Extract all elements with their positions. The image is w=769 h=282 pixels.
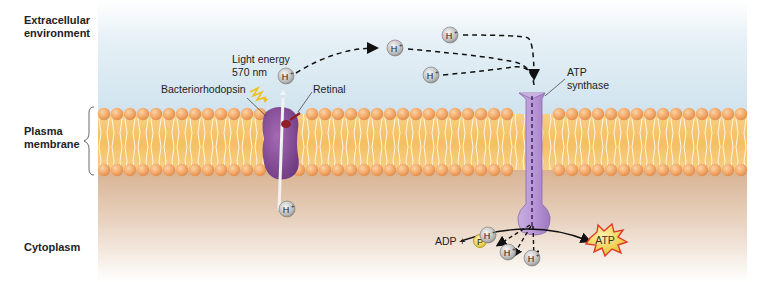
svg-text:+: +: [399, 42, 403, 48]
lipid-head: [488, 108, 500, 120]
lipid-head: [579, 164, 591, 176]
membrane-brace: [84, 107, 94, 175]
lipid-head: [163, 108, 175, 120]
lipid-head: [709, 108, 721, 120]
lipid-head: [475, 164, 487, 176]
lipid-head: [618, 164, 630, 176]
lipid-head: [332, 108, 344, 120]
lipid-head: [345, 164, 357, 176]
svg-text:H: H: [446, 31, 453, 41]
svg-text:H: H: [484, 231, 491, 241]
lipid-head: [397, 108, 409, 120]
proton-ion: H+: [279, 201, 295, 217]
lipid-head: [111, 164, 123, 176]
label-bacteriorhodopsin: Bacteriorhodopsin: [161, 83, 246, 95]
lipid-head: [137, 164, 149, 176]
lipid-head: [423, 164, 435, 176]
lipid-head: [410, 108, 422, 120]
lipid-head: [475, 108, 487, 120]
lipid-head: [722, 108, 734, 120]
lipid-head: [605, 164, 617, 176]
lipid-head: [670, 164, 682, 176]
cytoplasm-region: [98, 170, 747, 282]
lipid-head: [696, 108, 708, 120]
svg-text:H: H: [504, 248, 511, 258]
lipid-head: [332, 164, 344, 176]
lipid-head: [241, 108, 253, 120]
lipid-head: [579, 108, 591, 120]
lipid-head: [124, 164, 136, 176]
lipid-head: [436, 108, 448, 120]
lipid-head: [150, 164, 162, 176]
atp-label: ATP: [595, 234, 615, 246]
lipid-head: [735, 164, 747, 176]
lipid-head: [215, 164, 227, 176]
proton-pump-diagram: Light energy 570 nm Bacteriorhodopsin Re…: [0, 0, 769, 282]
lipid-head: [124, 108, 136, 120]
lipid-head: [176, 164, 188, 176]
lipid-head: [683, 108, 695, 120]
proton-ion: H+: [442, 27, 458, 43]
lipid-head: [644, 164, 656, 176]
lipid-head: [735, 108, 747, 120]
lipid-head: [358, 164, 370, 176]
svg-text:+: +: [291, 203, 295, 209]
lipid-head: [592, 164, 604, 176]
lipid-head: [254, 164, 266, 176]
lipid-bilayer: [98, 108, 747, 176]
lipid-head: [644, 108, 656, 120]
svg-text:H: H: [282, 72, 289, 82]
lipid-head: [423, 108, 435, 120]
proton-ion: H+: [423, 67, 439, 83]
lipid-head: [319, 164, 331, 176]
svg-text:H: H: [283, 205, 290, 215]
svg-text:+: +: [492, 229, 496, 235]
lipid-head: [241, 164, 253, 176]
lipid-head: [657, 108, 669, 120]
lipid-head: [306, 108, 318, 120]
lipid-head: [306, 164, 318, 176]
lipid-head: [397, 164, 409, 176]
lipid-head: [228, 108, 240, 120]
lipid-head: [501, 164, 513, 176]
svg-text:+: +: [512, 246, 516, 252]
lipid-head: [709, 164, 721, 176]
lipid-head: [722, 164, 734, 176]
lipid-head: [449, 108, 461, 120]
lipid-head: [202, 108, 214, 120]
lipid-head: [462, 108, 474, 120]
label-atp-synthase-2: synthase: [567, 79, 609, 91]
svg-text:H: H: [427, 71, 434, 81]
label-light-energy: Light energy: [232, 53, 291, 65]
svg-text:H: H: [528, 254, 535, 264]
lipid-head: [384, 108, 396, 120]
lipid-head: [670, 108, 682, 120]
lipid-head: [228, 164, 240, 176]
lipid-head: [137, 108, 149, 120]
lipid-head: [553, 164, 565, 176]
lipid-head: [410, 164, 422, 176]
lipid-head: [501, 108, 513, 120]
lipid-head: [436, 164, 448, 176]
lipid-head: [189, 108, 201, 120]
svg-text:+: +: [454, 29, 458, 35]
lipid-head: [657, 164, 669, 176]
lipid-head: [566, 108, 578, 120]
svg-text:H: H: [391, 44, 398, 54]
lipid-head: [384, 164, 396, 176]
lipid-head: [592, 108, 604, 120]
lipid-head: [618, 108, 630, 120]
lipid-head: [462, 164, 474, 176]
lipid-head: [163, 164, 175, 176]
lipid-head: [696, 164, 708, 176]
proton-ion: H+: [480, 227, 496, 243]
lipid-head: [150, 108, 162, 120]
proton-ion: H+: [524, 250, 540, 266]
label-wavelength: 570 nm: [232, 66, 267, 78]
proton-ion: H+: [387, 40, 403, 56]
lipid-head: [202, 164, 214, 176]
label-adp: ADP +: [435, 235, 465, 247]
proton-ion: H+: [500, 244, 516, 260]
lipid-head: [189, 164, 201, 176]
extracellular-region: [98, 0, 747, 114]
